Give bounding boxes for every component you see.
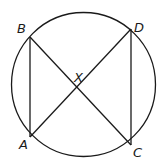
label-a: A [18,137,28,152]
label-d: D [134,20,144,35]
label-x: X [73,70,84,85]
label-b: B [17,21,26,36]
label-c: C [133,145,143,160]
geometry-diagram: B D X A C [0,0,167,167]
segment-bc [30,37,131,145]
